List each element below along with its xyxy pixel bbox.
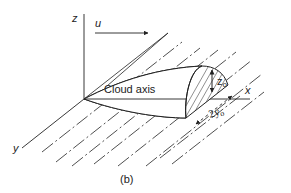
height-label: zo xyxy=(217,75,228,89)
cloud-plume-diagram: z y x u Cloud axis xyxy=(0,0,291,193)
width-label: 2yo xyxy=(207,104,226,122)
z-axis-label: z xyxy=(71,12,78,24)
x-axis-label: x xyxy=(244,84,251,96)
wind-arrow: u xyxy=(95,17,148,33)
wind-label: u xyxy=(95,17,101,29)
figure-caption: (b) xyxy=(120,173,133,185)
y-axis: y xyxy=(12,99,84,154)
cloud-axis-label: Cloud axis xyxy=(104,83,156,95)
z-axis: z xyxy=(71,12,84,99)
y-axis-label: y xyxy=(12,142,20,154)
cloud-plume: Cloud axis xyxy=(84,66,202,118)
